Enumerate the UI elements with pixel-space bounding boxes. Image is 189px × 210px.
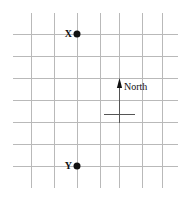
marker-label-x: X [65, 29, 72, 39]
marker-dot-y [74, 163, 81, 170]
north-arrow-head-icon [117, 78, 122, 88]
marker-label-y: Y [65, 161, 72, 171]
map-overlay-annotations [0, 0, 189, 210]
north-arrow-label: North [124, 82, 147, 92]
marker-dot-x [74, 31, 81, 38]
grid-map-figure: XY North [0, 0, 189, 210]
